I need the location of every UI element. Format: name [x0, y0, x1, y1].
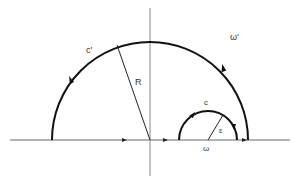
- label-outer-radius: R: [135, 77, 142, 87]
- axis-arrow-left-icon: [122, 138, 127, 142]
- outer-radius-line: [117, 45, 150, 140]
- axis-arrow-mid-icon: [163, 138, 168, 142]
- outer-arc-arrow-right-icon: [220, 64, 226, 73]
- label-outer-contour: c': [86, 45, 93, 55]
- diagram-canvas: c' R ω' c ε ω: [0, 0, 297, 176]
- label-inner-contour: c: [204, 98, 208, 107]
- label-inner-radius: ε: [219, 126, 223, 135]
- label-outer-point: ω': [230, 32, 239, 42]
- label-inner-point: ω: [203, 144, 209, 153]
- axis-arrow-right-icon: [242, 138, 247, 142]
- inner-contour-arc: [179, 111, 237, 140]
- contour-diagram: c' R ω' c ε ω: [0, 0, 297, 176]
